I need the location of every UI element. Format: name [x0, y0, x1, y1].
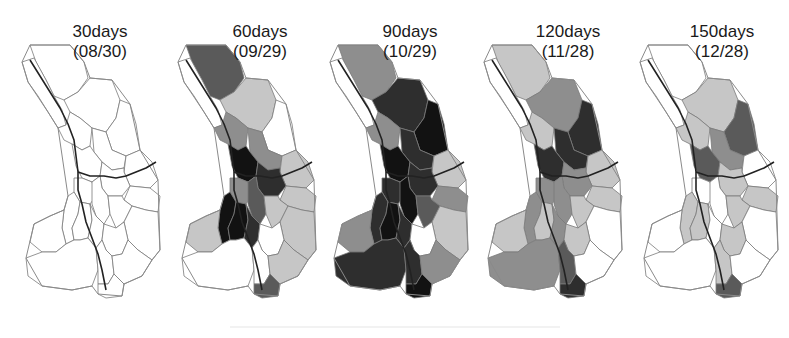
map-panel-60days: 60days(09/29) — [168, 0, 328, 320]
map-region-r19 — [492, 210, 528, 252]
date-label: (12/28) — [682, 42, 762, 62]
days-label: 60days — [220, 22, 300, 42]
map-panel-90days: 90days(10/29) — [320, 0, 480, 320]
days-label: 90days — [370, 22, 450, 42]
days-label: 150days — [682, 22, 762, 42]
panel-label: 30days(08/30) — [60, 22, 140, 62]
map-region-r7 — [742, 150, 776, 188]
map-region-r7 — [586, 150, 620, 188]
figure-caption-faint — [230, 326, 560, 328]
panel-label: 150days(12/28) — [682, 22, 762, 62]
panel-label: 90days(10/29) — [370, 22, 450, 62]
map-region-r7 — [124, 150, 158, 188]
date-label: (10/29) — [370, 42, 450, 62]
date-label: (11/28) — [528, 42, 608, 62]
map-region-r19 — [30, 210, 66, 252]
map-panel-150days: 150days(12/28) — [630, 0, 789, 320]
map-region-r7 — [432, 150, 466, 188]
days-label: 30days — [60, 22, 140, 42]
map-region-r7 — [280, 150, 314, 188]
map-region-r19 — [186, 210, 222, 252]
days-label: 120days — [528, 22, 608, 42]
map-region-r19 — [648, 210, 684, 252]
date-label: (08/30) — [60, 42, 140, 62]
map-region-r19 — [338, 210, 374, 252]
date-label: (09/29) — [220, 42, 300, 62]
panel-label: 60days(09/29) — [220, 22, 300, 62]
panel-label: 120days(11/28) — [528, 22, 608, 62]
map-panel-30days: 30days(08/30) — [12, 0, 172, 320]
map-panel-120days: 120days(11/28) — [474, 0, 634, 320]
